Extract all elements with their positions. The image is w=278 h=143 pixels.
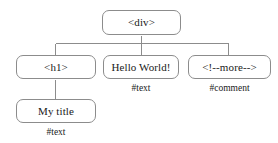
tree-node-hello-world-caption: #text [103, 84, 179, 94]
tree-node-div[interactable]: <div> [102, 10, 181, 35]
dom-tree-diagram: <div> <h1> Hello World! #text <!--more--… [0, 0, 278, 143]
tree-node-hello-world-label: Hello World! [111, 62, 170, 73]
tree-node-hello-world[interactable]: Hello World! [103, 55, 179, 79]
tree-node-comment[interactable]: <!--more--> [188, 55, 271, 79]
tree-node-my-title-caption: #text [16, 128, 96, 138]
tree-node-comment-label: <!--more--> [202, 62, 256, 73]
tree-node-h1-label: <h1> [44, 62, 68, 73]
tree-node-div-label: <div> [128, 17, 155, 28]
tree-node-my-title[interactable]: My title [16, 99, 96, 123]
tree-node-my-title-label: My title [38, 106, 74, 117]
tree-node-h1[interactable]: <h1> [16, 55, 96, 79]
tree-node-comment-caption: #comment [188, 84, 271, 94]
